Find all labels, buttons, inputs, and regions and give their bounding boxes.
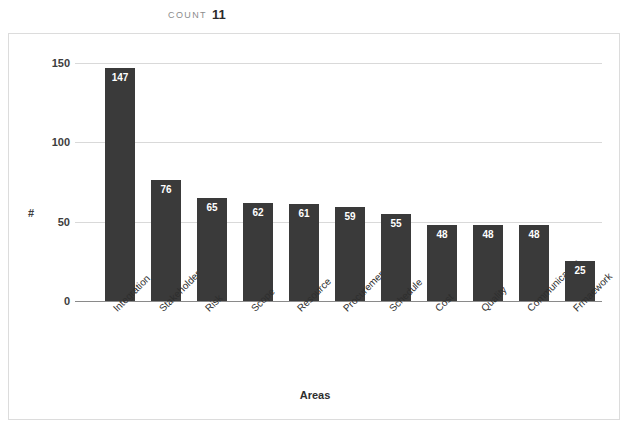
bar-value-label: 48: [519, 229, 549, 240]
bar-value-label: 76: [151, 184, 181, 195]
count-summary: COUNT11: [168, 5, 226, 23]
bar-value-label: 25: [565, 265, 595, 276]
bar-value-label: 48: [427, 229, 457, 240]
bar-value-label: 65: [197, 202, 227, 213]
count-value: 11: [212, 7, 226, 22]
bar-value-label: 55: [381, 218, 411, 229]
bar-value-label: 147: [105, 72, 135, 83]
bar-value-label: 61: [289, 208, 319, 219]
bar-series: 147Integration76Stakeholder65Risk62Scope…: [9, 34, 621, 421]
chart-card: 050100150 # 147Integration76Stakeholder6…: [8, 33, 620, 420]
bar[interactable]: 65: [197, 198, 227, 301]
chart-header: COUNT11: [0, 0, 631, 33]
bar[interactable]: 48: [427, 225, 457, 301]
bar-chart-plot: 050100150 # 147Integration76Stakeholder6…: [9, 34, 621, 421]
bar[interactable]: 147: [105, 68, 135, 301]
count-label: COUNT: [168, 10, 207, 20]
bar-value-label: 59: [335, 211, 365, 222]
bar-value-label: 62: [243, 207, 273, 218]
bar-value-label: 48: [473, 229, 503, 240]
x-axis-title: Areas: [9, 389, 621, 401]
bar[interactable]: 76: [151, 180, 181, 301]
